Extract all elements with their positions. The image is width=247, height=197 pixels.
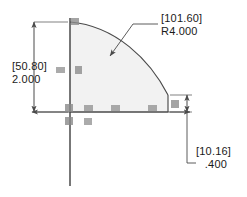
radius-metric-value: [101.60] xyxy=(161,12,202,25)
marker-baseline-1 xyxy=(84,105,93,111)
thickness-imperial-value: .400 xyxy=(196,158,231,171)
thickness-callout-leader xyxy=(187,112,196,163)
marker-left-outer xyxy=(56,67,65,73)
profile-fill xyxy=(70,22,168,112)
marker-right-edge xyxy=(171,100,179,108)
marker-top-vertex xyxy=(71,18,79,25)
thickness-metric-value: [10.16] xyxy=(196,145,231,158)
marker-left-inner xyxy=(75,66,82,74)
radius-imperial-value: R4.000 xyxy=(161,25,202,38)
marker-baseline-below xyxy=(84,118,92,125)
height-metric-value: [50.80] xyxy=(12,60,47,73)
height-dimension-label: [50.80] 2.000 xyxy=(12,60,47,85)
height-imperial-value: 2.000 xyxy=(12,73,47,86)
marker-baseline-2 xyxy=(111,105,120,111)
marker-baseline-3 xyxy=(148,105,157,111)
thickness-dimension-label: [10.16] .400 xyxy=(196,145,231,170)
marker-origin-lower xyxy=(65,117,73,125)
radius-dimension-label: [101.60] R4.000 xyxy=(161,12,202,37)
technical-drawing: [50.80] 2.000 [101.60] R4.000 [10.16] .4… xyxy=(0,0,247,197)
marker-origin-upper xyxy=(65,104,73,112)
